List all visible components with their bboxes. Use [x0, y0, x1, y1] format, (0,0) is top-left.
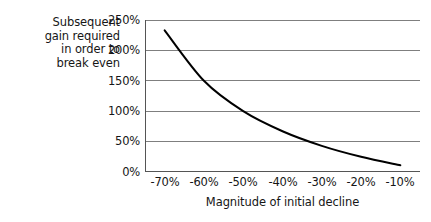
- plot-area: [145, 20, 420, 172]
- y-tick-0: 0%: [96, 167, 140, 179]
- y-tick-50: 50%: [96, 136, 140, 148]
- y-tick-100: 100%: [96, 106, 140, 118]
- y-tick-150: 150%: [96, 76, 140, 88]
- x-axis-title: Magnitude of initial decline: [145, 196, 420, 209]
- x-tick-minus-10: -10%: [376, 176, 424, 188]
- y-tick-250: 250%: [96, 15, 140, 27]
- chart-figure: Subsequent gain required in order to bre…: [0, 0, 431, 222]
- y-axis-tick-labels: 250% 200% 150% 100% 50% 0%: [92, 0, 140, 222]
- plot-canvas: [145, 20, 420, 172]
- x-axis-tick-labels: -70% -60% -50% -40% -30% -20% -10%: [145, 176, 420, 192]
- gridlines: [145, 21, 420, 142]
- y-tick-200: 200%: [96, 45, 140, 57]
